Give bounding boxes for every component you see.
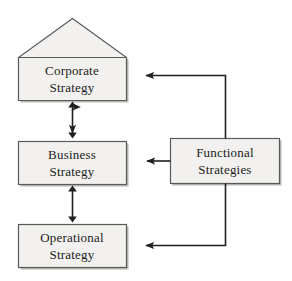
node-business-strategy — [19, 142, 129, 187]
node-functional-strategies — [171, 139, 282, 186]
operational-strategy-shape — [19, 225, 127, 268]
node-corporate-strategy — [19, 19, 129, 103]
connector-business-operational — [68, 186, 77, 223]
connector-functional-corporate — [146, 76, 226, 139]
functional-strategies-shape — [171, 139, 280, 184]
node-operational-strategy — [19, 225, 129, 270]
arrowhead-down-operational — [68, 217, 77, 223]
business-strategy-shape — [19, 142, 127, 185]
connector-functional-operational — [146, 184, 226, 246]
diagram-canvas — [0, 0, 292, 281]
corporate-strategy-shape — [19, 19, 127, 101]
arrowhead-down-business — [68, 133, 77, 139]
elbow-line-functional-corporate — [146, 76, 226, 139]
connector-corporate-business — [68, 102, 77, 139]
strategy-hierarchy-diagram: Corporate Strategy Business Strategy Ope… — [0, 0, 292, 281]
elbow-line-functional-operational — [146, 184, 226, 246]
